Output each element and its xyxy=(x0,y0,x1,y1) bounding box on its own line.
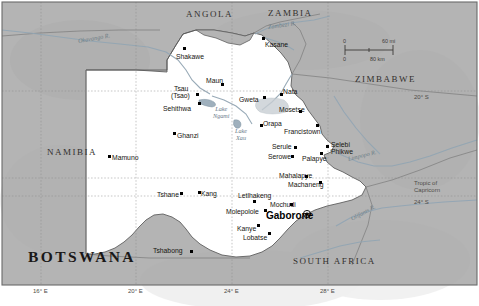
map-container: BOTSWANA ANGOLA ZAMBIA ZIMBABWE NAMIBIA … xyxy=(0,0,479,306)
city-dot-sehithwa xyxy=(198,102,201,105)
city-dot-kang xyxy=(198,191,201,194)
city-dot-mosetse xyxy=(299,110,302,113)
city-dot-shakawe xyxy=(183,47,186,50)
makgadikgadi-pan xyxy=(255,98,288,114)
city-dot-palapye xyxy=(320,152,323,155)
city-dot-letlhakeng xyxy=(253,200,256,203)
scale-bar: 0 60 mi 0 80 km xyxy=(342,38,404,62)
map-graphic xyxy=(0,0,479,306)
city-dot-kasane xyxy=(262,37,265,40)
city-dot-mahalapye xyxy=(305,175,308,178)
city-dot-gweta xyxy=(263,96,266,99)
city-dot-machaneng xyxy=(319,181,322,184)
scale-km-zero: 0 xyxy=(343,56,346,62)
city-dot-tsau xyxy=(196,93,199,96)
city-dot-ghanzi xyxy=(173,132,176,135)
city-dot-mochudi xyxy=(290,203,293,206)
city-dot-selebi-phikwe xyxy=(326,145,329,148)
city-dot-francistown xyxy=(316,124,319,127)
city-dot-orapa xyxy=(260,124,263,127)
city-dot-molepolole xyxy=(264,209,267,212)
city-dot-mamuno xyxy=(108,155,111,158)
city-dot-tshabong xyxy=(190,250,193,253)
scale-miles-zero: 0 xyxy=(343,38,346,44)
city-dot-serowe xyxy=(291,155,294,158)
city-dot-maun xyxy=(221,83,224,86)
scale-km-max: 80 km xyxy=(370,56,385,62)
city-dot-tshane xyxy=(180,192,183,195)
lake-xau xyxy=(233,120,241,128)
city-dot-nata xyxy=(280,93,283,96)
city-dot-serule xyxy=(294,146,297,149)
city-dot-lobatse xyxy=(268,232,271,235)
city-dot-kanye xyxy=(257,224,260,227)
scale-miles-max: 60 mi xyxy=(382,38,395,44)
